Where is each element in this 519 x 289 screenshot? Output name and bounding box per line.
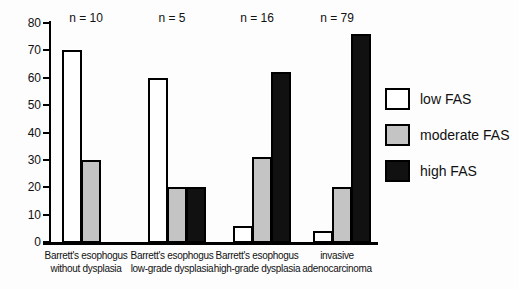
legend-label-low-fas: low FAS [420, 91, 471, 107]
n-label-group-2: n = 5 [132, 11, 212, 25]
bar-moderate-fas-group-2 [167, 187, 187, 243]
legend-label-moderate-fas: moderate FAS [420, 127, 510, 143]
n-label-group-4: n = 79 [297, 11, 377, 25]
fas-bar-chart-figure: 01020304050607080n = 10Barrett's esophog… [0, 0, 519, 289]
bar-moderate-fas-group-1 [81, 160, 101, 243]
n-label-group-3: n = 16 [217, 11, 297, 25]
legend-swatch-low-fas [385, 88, 410, 110]
y-tick-30 [43, 159, 50, 161]
y-tick-label-0: 0 [11, 235, 41, 249]
n-label-group-1: n = 10 [46, 11, 126, 25]
y-tick-10 [43, 214, 50, 216]
category-label-group-4: invasiveadenocarcinoma [277, 250, 397, 275]
bar-low-fas-group-4 [313, 231, 333, 243]
bar-high-fas-group-3 [271, 72, 291, 243]
y-tick-label-30: 30 [11, 153, 41, 167]
y-tick-label-10: 10 [11, 208, 41, 222]
y-tick-label-80: 80 [11, 16, 41, 30]
legend-item-high-fas: high FAS [385, 160, 510, 182]
y-tick-40 [43, 132, 50, 134]
bar-low-fas-group-3 [233, 226, 253, 243]
legend-label-high-fas: high FAS [420, 163, 477, 179]
legend-item-moderate-fas: moderate FAS [385, 124, 510, 146]
y-tick-label-40: 40 [11, 126, 41, 140]
bar-low-fas-group-1 [62, 50, 82, 243]
y-tick-20 [43, 186, 50, 188]
legend-swatch-moderate-fas [385, 124, 410, 146]
y-tick-label-60: 60 [11, 71, 41, 85]
bar-moderate-fas-group-3 [252, 157, 272, 243]
y-tick-label-70: 70 [11, 43, 41, 57]
y-tick-label-50: 50 [11, 98, 41, 112]
category-label-line: invasive [277, 250, 397, 263]
legend-swatch-high-fas [385, 160, 410, 182]
y-tick-70 [43, 49, 50, 51]
legend-item-low-fas: low FAS [385, 88, 510, 110]
y-tick-label-20: 20 [11, 180, 41, 194]
bar-moderate-fas-group-4 [332, 187, 352, 243]
y-tick-50 [43, 104, 50, 106]
bar-high-fas-group-4 [351, 34, 371, 243]
y-tick-60 [43, 77, 50, 79]
bar-low-fas-group-2 [148, 78, 168, 243]
legend: low FASmoderate FAShigh FAS [385, 88, 510, 182]
category-label-line: adenocarcinoma [277, 263, 397, 276]
bar-high-fas-group-2 [186, 187, 206, 243]
